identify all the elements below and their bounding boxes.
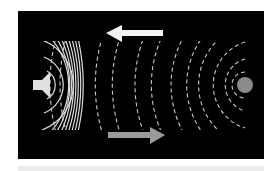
arrow-right-icon — [108, 127, 165, 144]
speaker-icon — [33, 72, 50, 98]
wave-diagram-panel — [18, 11, 264, 159]
footer-bar — [18, 166, 264, 171]
reflector-circle-icon — [237, 77, 253, 93]
arrow-left-icon — [106, 25, 163, 42]
